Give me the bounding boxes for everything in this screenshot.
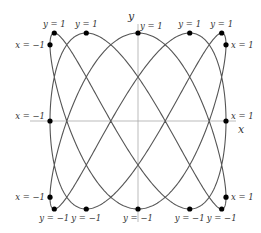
point-marker — [47, 118, 52, 123]
point-label: y = 1 — [209, 19, 233, 29]
point-label: y = −1 — [122, 213, 153, 223]
point-label: y = −1 — [38, 213, 69, 223]
point-label: x = −1 — [15, 192, 45, 202]
point-label: x = 1 — [231, 111, 254, 121]
point-marker — [47, 42, 52, 47]
point-marker — [223, 195, 228, 200]
point-marker — [47, 195, 52, 200]
point-marker — [223, 42, 228, 47]
point-label: x = 1 — [231, 40, 254, 50]
point-label: y = −1 — [206, 213, 237, 223]
point-label: y = −1 — [174, 213, 205, 223]
point-label: y = −1 — [70, 213, 101, 223]
point-marker — [84, 206, 89, 211]
point-marker — [84, 30, 89, 35]
x-axis-label: x — [238, 123, 245, 136]
point-marker — [52, 206, 57, 211]
point-label: y = 1 — [42, 19, 66, 29]
point-label: x = −1 — [15, 40, 45, 50]
point-marker — [223, 118, 228, 123]
y-axis-label: y — [127, 10, 135, 23]
point-label: y = 1 — [139, 21, 163, 31]
point-marker — [219, 206, 224, 211]
point-marker — [187, 206, 192, 211]
point-marker — [219, 30, 224, 35]
point-label: y = 1 — [177, 19, 201, 29]
point-marker — [52, 30, 57, 35]
lissajous-diagram: x y y = 1y = 1y = 1y = 1y = 1y = −1y = −… — [0, 0, 261, 233]
point-marker — [135, 206, 140, 211]
point-label: y = 1 — [74, 19, 98, 29]
point-label: x = −1 — [15, 111, 45, 121]
point-marker — [187, 30, 192, 35]
point-marker — [135, 30, 140, 35]
point-label: x = 1 — [231, 192, 254, 202]
